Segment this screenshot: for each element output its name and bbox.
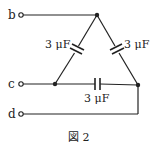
terminal-d-label: d bbox=[8, 107, 16, 121]
terminal-b-label: b bbox=[8, 8, 16, 22]
capacitor-left-label: 3 μF bbox=[45, 38, 71, 51]
node-right bbox=[136, 83, 140, 87]
terminal-b-icon bbox=[19, 13, 23, 17]
node-top bbox=[95, 13, 99, 17]
wire-c-right bbox=[100, 84, 138, 85]
capacitor-left-icon bbox=[70, 44, 84, 54]
wire-right-lower bbox=[119, 53, 138, 85]
wire-left-upper bbox=[79, 15, 98, 46]
circuit-diagram: b c d 3 μF 3 μF 3 μF 図 2 bbox=[0, 0, 157, 153]
figure-caption: 図 2 bbox=[68, 131, 90, 144]
wire-right-upper bbox=[97, 15, 115, 46]
terminal-c-icon bbox=[19, 82, 23, 86]
capacitor-right-icon bbox=[110, 44, 124, 54]
terminal-d-icon bbox=[19, 112, 23, 116]
capacitor-bottom-icon bbox=[95, 78, 100, 90]
capacitor-bottom-label: 3 μF bbox=[84, 92, 110, 105]
capacitor-right-label: 3 μF bbox=[124, 38, 150, 51]
node-left bbox=[53, 82, 57, 86]
wire-left-lower bbox=[55, 53, 75, 84]
terminal-c-label: c bbox=[8, 77, 15, 91]
